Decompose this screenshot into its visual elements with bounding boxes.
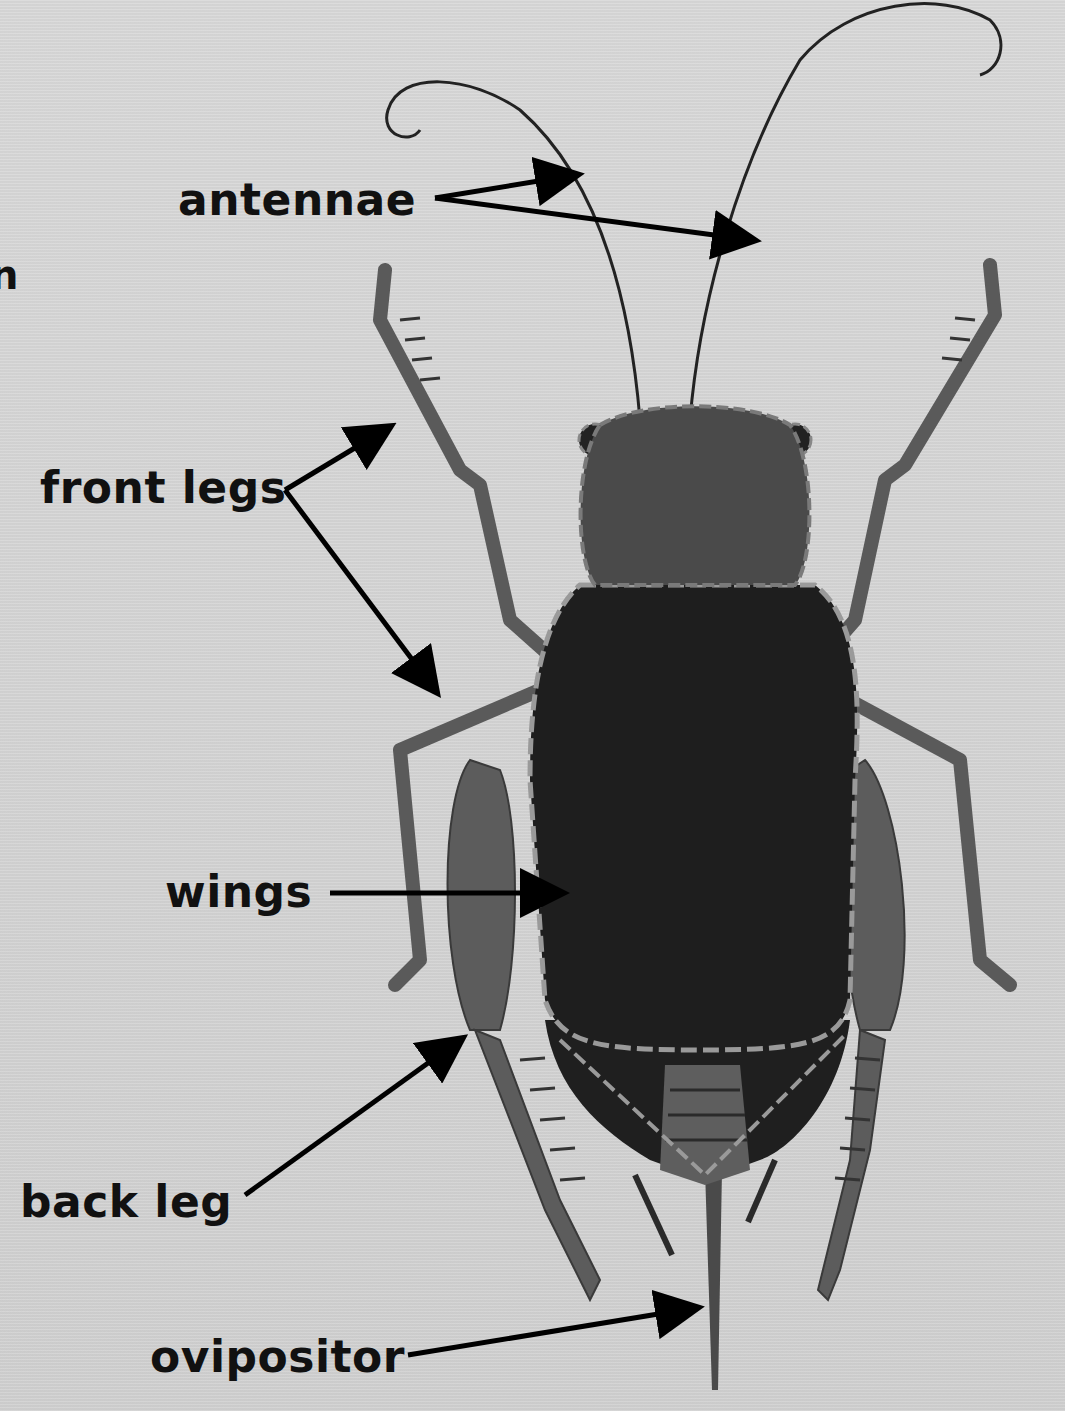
wings-drawing: [530, 585, 857, 1050]
arrow-antennae-left: [435, 175, 575, 198]
arrow-antennae-right: [435, 198, 752, 240]
arrow-front-legs-upper: [285, 428, 388, 490]
abdomen-segments: [660, 1065, 750, 1185]
label-antennae: antennae: [178, 178, 416, 222]
antennae-drawing: [387, 4, 1001, 420]
edge-text-fragment: n: [0, 255, 19, 295]
label-front-legs: front legs: [40, 466, 286, 510]
diagram-canvas: antennae front legs wings back leg ovipo…: [0, 0, 1065, 1411]
label-back-leg: back leg: [20, 1180, 232, 1224]
label-ovipositor: ovipositor: [150, 1335, 405, 1379]
label-wings: wings: [165, 870, 312, 914]
ovipositor-drawing: [705, 1170, 722, 1390]
arrow-front-legs-lower: [285, 490, 435, 690]
arrow-back-leg: [245, 1040, 460, 1195]
head-drawing: [579, 406, 811, 585]
arrow-ovipositor: [408, 1308, 695, 1355]
